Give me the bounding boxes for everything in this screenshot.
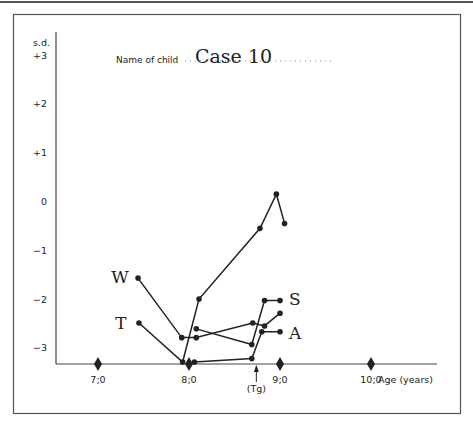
diamond-tick-icon	[276, 357, 284, 371]
data-point	[282, 221, 288, 227]
series-s: S	[193, 289, 300, 348]
x-tick-label: 8;0	[181, 374, 196, 385]
diamond-tick-icon	[185, 357, 193, 371]
data-point	[193, 326, 199, 332]
data-point	[193, 335, 199, 341]
data-point	[277, 329, 283, 335]
data-point	[179, 335, 185, 341]
data-point	[136, 320, 142, 326]
x-tick-label: 7;0	[90, 374, 105, 385]
tg-annotation-label: (Tg)	[247, 383, 266, 394]
series-label: A	[288, 323, 302, 343]
axes	[56, 32, 437, 364]
y-tick-label: −1	[33, 245, 47, 256]
y-tick-label: −3	[33, 342, 47, 353]
data-point	[274, 191, 280, 197]
data-point	[250, 320, 256, 326]
y-tick-label: 0	[41, 196, 47, 207]
y-ticks: +3+2+10−1−2−3	[33, 50, 47, 354]
series-line	[195, 332, 281, 362]
y-tick-label: +2	[33, 98, 47, 109]
series-label: W	[111, 267, 129, 287]
data-point	[277, 310, 283, 316]
data-point	[259, 329, 265, 335]
data-point	[262, 298, 268, 304]
growth-chart: Name of child Case 10 s.d. +3+2+10−1−2−3…	[0, 0, 473, 424]
series-line	[139, 194, 285, 362]
data-point	[257, 226, 263, 232]
data-point	[262, 323, 268, 329]
y-tick-label: +3	[33, 50, 47, 61]
data-point	[196, 296, 202, 302]
series-t: T	[115, 191, 287, 364]
data-series: WTSA	[111, 191, 302, 364]
y-tick-label: +1	[33, 147, 47, 158]
chart-frame	[14, 15, 461, 414]
data-point	[180, 359, 186, 365]
x-axis-label: Age (years)	[378, 374, 433, 385]
y-axis-label: s.d.	[33, 37, 50, 48]
x-tick-label: 9;0	[272, 374, 287, 385]
data-point	[249, 356, 255, 362]
diamond-tick-icon	[94, 357, 102, 371]
name-of-child-label: Name of child	[116, 55, 178, 65]
x-ticks: 7;08;09;010;0	[90, 357, 381, 385]
series-label: T	[115, 313, 127, 333]
series-label: S	[289, 289, 301, 309]
arrow-head-icon	[254, 365, 259, 372]
data-point	[277, 298, 283, 304]
case-name-value: Case 10	[195, 45, 272, 67]
data-point	[249, 342, 255, 348]
diamond-tick-icon	[367, 357, 375, 371]
annotations: (Tg)	[247, 365, 266, 394]
data-point	[192, 359, 198, 365]
data-point	[135, 275, 141, 281]
y-tick-label: −2	[33, 294, 47, 305]
